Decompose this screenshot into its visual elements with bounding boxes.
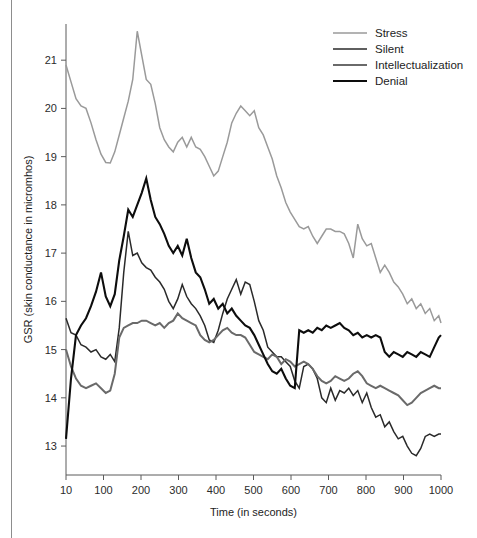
x-tick-label: 200: [132, 484, 150, 496]
legend-label-stress: Stress: [375, 27, 408, 39]
x-tick-label: 500: [244, 484, 262, 496]
y-tick-label: 16: [45, 295, 57, 307]
gsr-line-chart: 1314151617181920211010020030040050060070…: [0, 0, 477, 538]
y-tick-label: 14: [45, 392, 57, 404]
chart-figure: 1314151617181920211010020030040050060070…: [0, 0, 477, 538]
x-tick-label: 800: [357, 484, 375, 496]
y-tick-label: 13: [45, 440, 57, 452]
page-edge-rule: [11, 0, 12, 538]
y-tick-label: 15: [45, 344, 57, 356]
x-tick-label: 600: [282, 484, 300, 496]
x-tick-label: 100: [94, 484, 112, 496]
legend-label-silent: Silent: [375, 43, 405, 55]
series-line-intellectualization: [66, 313, 441, 405]
legend-label-denial: Denial: [375, 75, 408, 87]
series-line-denial: [66, 178, 441, 438]
y-tick-label: 20: [45, 102, 57, 114]
x-tick-label: 300: [169, 484, 187, 496]
series-layer: [66, 31, 441, 455]
x-axis-title: Time (in seconds): [210, 506, 297, 518]
x-tick-label: 1000: [429, 484, 453, 496]
x-tick-label: 900: [394, 484, 412, 496]
y-tick-label: 18: [45, 199, 57, 211]
y-axis-title: GSR (skin conductance in micromhos): [22, 156, 34, 344]
y-tick-label: 17: [45, 247, 57, 259]
x-tick-label: 10: [60, 484, 72, 496]
axes-layer: 1314151617181920211010020030040050060070…: [45, 24, 453, 496]
y-tick-label: 19: [45, 151, 57, 163]
x-tick-label: 400: [207, 484, 225, 496]
y-tick-label: 21: [45, 54, 57, 66]
x-tick-label: 700: [319, 484, 337, 496]
legend: StressSilentIntellectualizationDenial: [333, 27, 463, 87]
legend-label-intellectualization: Intellectualization: [375, 59, 463, 71]
